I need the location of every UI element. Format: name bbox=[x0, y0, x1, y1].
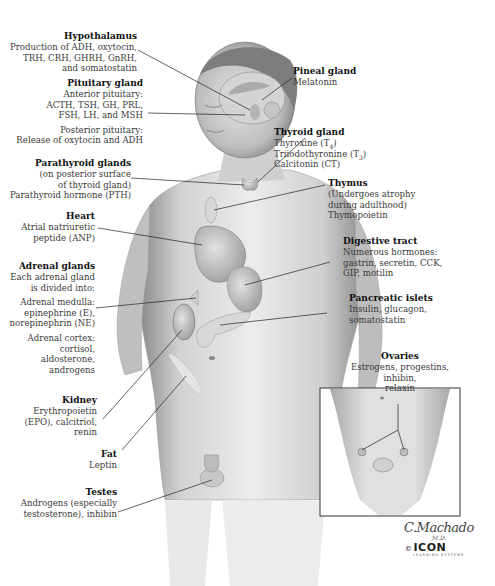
heart-title: Heart bbox=[21, 211, 95, 222]
label-pituitary: Pituitary gland Anterior pituitary: ACTH… bbox=[16, 78, 143, 146]
label-adrenal: Adrenal glands Each adrenal gland is div… bbox=[10, 261, 95, 375]
label-heart: Heart Atrial natriuretic peptide (ANP) bbox=[21, 211, 95, 243]
thymus-title: Thymus bbox=[328, 178, 415, 189]
digestive-title: Digestive tract bbox=[343, 236, 442, 247]
artist-signature-suffix: M.D. bbox=[432, 534, 447, 541]
label-fat: Fat Leptin bbox=[89, 449, 117, 471]
label-ovaries: Ovaries Estrogens, progestins, inhibin, … bbox=[335, 351, 465, 394]
ovary-left bbox=[358, 448, 366, 456]
thyroid-title: Thyroid gland bbox=[274, 127, 366, 138]
uterus-organ bbox=[373, 458, 393, 472]
label-digestive: Digestive tract Numerous hormones: gastr… bbox=[343, 236, 442, 279]
kidney-organ bbox=[173, 304, 195, 340]
pituitary-title: Pituitary gland bbox=[16, 78, 143, 89]
fat-title: Fat bbox=[89, 449, 117, 460]
kidney-title: Kidney bbox=[25, 395, 97, 406]
label-thymus: Thymus (Undergoes atrophy during adultho… bbox=[328, 178, 415, 221]
parathyroid-title: Parathyroid glands bbox=[10, 158, 131, 169]
endocrine-diagram: Hypothalamus Production of ADH, oxytocin… bbox=[0, 0, 495, 586]
label-thyroid: Thyroid gland Thyroxine (T4) Triiodothyr… bbox=[274, 127, 366, 170]
ovaries-title: Ovaries bbox=[335, 351, 465, 362]
adrenal-title: Adrenal glands bbox=[10, 261, 95, 272]
testes-title: Testes bbox=[21, 487, 117, 498]
pancreatic-title: Pancreatic islets bbox=[349, 293, 433, 304]
label-hypothalamus: Hypothalamus Production of ADH, oxytocin… bbox=[10, 31, 137, 74]
artist-signature: C.Machado bbox=[404, 520, 474, 535]
pineal-title: Pineal gland bbox=[293, 66, 356, 77]
label-pineal: Pineal gland Melatonin bbox=[293, 66, 356, 88]
hypothalamus-title: Hypothalamus bbox=[10, 31, 137, 42]
publisher-logo-subtitle: LEARNING SYSTEMS bbox=[413, 553, 464, 557]
label-kidney: Kidney Erythropoietin (EPO), calcitriol,… bbox=[25, 395, 97, 438]
label-pancreatic-islets: Pancreatic islets Insulin, glucagon, som… bbox=[349, 293, 433, 325]
label-testes: Testes Androgens (especially testosteron… bbox=[21, 487, 117, 519]
copyright-symbol: © bbox=[405, 545, 413, 553]
label-parathyroid: Parathyroid glands (on posterior surface… bbox=[10, 158, 131, 201]
